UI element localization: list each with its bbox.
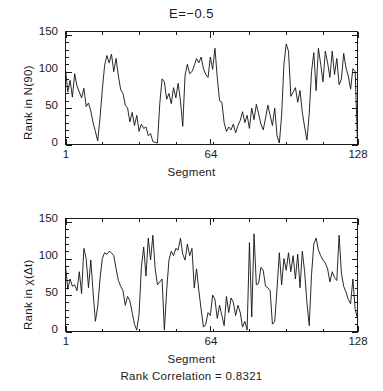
top-plot-canvas xyxy=(0,0,383,190)
top-xtick-128: 128 xyxy=(343,148,373,160)
bottom-data-line xyxy=(66,234,358,330)
bottom-x-axis-label: Segment xyxy=(0,353,383,365)
top-xtick-1: 1 xyxy=(52,148,80,160)
top-data-line xyxy=(66,44,358,143)
panel-top: E=−0.5 Rank in N(90) 150 100 50 0 1 64 1… xyxy=(0,0,383,190)
figure-root: E=−0.5 Rank in N(90) 150 100 50 0 1 64 1… xyxy=(0,0,383,391)
bottom-axis-ticks xyxy=(66,219,359,333)
top-axis-ticks xyxy=(66,32,359,146)
panel-bottom: Rank in χ(Δt) 150 100 50 0 1 64 128 Segm… xyxy=(0,190,383,391)
top-x-axis-label: Segment xyxy=(0,166,383,178)
bottom-xtick-128: 128 xyxy=(343,335,373,347)
bottom-xtick-1: 1 xyxy=(52,335,80,347)
top-xtick-64: 64 xyxy=(197,148,225,160)
bottom-xtick-64: 64 xyxy=(197,335,225,347)
rank-correlation-caption: Rank Correlation = 0.8321 xyxy=(0,370,383,382)
